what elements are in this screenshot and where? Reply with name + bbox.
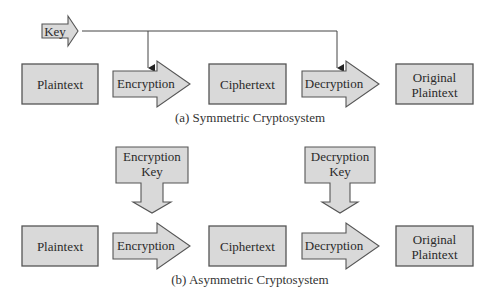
decryption-arrow: Decryption — [302, 61, 379, 107]
plaintext-label: Plaintext — [37, 77, 84, 92]
decryption-arrow-b: Decryption — [302, 223, 379, 269]
ciphertext-box-b: Ciphertext — [209, 226, 286, 266]
decryption-key-line1: Decryption — [311, 149, 370, 164]
plaintext-box-b: Plaintext — [22, 226, 98, 266]
encryption-label-b: Encryption — [117, 238, 175, 253]
original-label-line2-b: Plaintext — [411, 247, 458, 262]
decryption-label: Decryption — [305, 76, 364, 91]
encryption-label: Encryption — [117, 76, 175, 91]
encryption-key-line1: Encryption — [123, 149, 181, 164]
original-plaintext-box-b: Original Plaintext — [396, 226, 473, 266]
ciphertext-label: Ciphertext — [220, 77, 275, 92]
ciphertext-label-b: Ciphertext — [220, 239, 275, 254]
encryption-key-callout: Encryption Key — [116, 147, 188, 213]
decryption-key-line2: Key — [329, 164, 351, 179]
key-arrow: Key — [42, 16, 78, 46]
decryption-key-callout: Decryption Key — [305, 147, 375, 213]
encryption-arrow: Encryption — [113, 61, 190, 107]
original-label-line1: Original — [413, 70, 457, 85]
cryptosystem-diagram: Key Plaintext Encryption Ciphertext Decr… — [0, 0, 490, 296]
original-plaintext-box: Original Plaintext — [396, 64, 473, 104]
symmetric-section: Key Plaintext Encryption Ciphertext Decr… — [22, 16, 473, 125]
ciphertext-box: Ciphertext — [209, 64, 286, 104]
encryption-key-line2: Key — [141, 164, 163, 179]
encryption-arrow-b: Encryption — [113, 223, 190, 269]
plaintext-box: Plaintext — [22, 64, 98, 104]
asymmetric-section: Encryption Key Decryption Key Plaintext … — [22, 147, 473, 287]
plaintext-label-b: Plaintext — [37, 239, 84, 254]
key-distribution-line — [82, 31, 337, 68]
symmetric-caption: (a) Symmetric Cryptosystem — [175, 110, 325, 125]
original-label-line2: Plaintext — [411, 85, 458, 100]
asymmetric-caption: (b) Asymmetric Cryptosystem — [171, 272, 328, 287]
original-label-line1-b: Original — [413, 232, 457, 247]
key-label: Key — [44, 24, 66, 39]
decryption-label-b: Decryption — [305, 238, 364, 253]
